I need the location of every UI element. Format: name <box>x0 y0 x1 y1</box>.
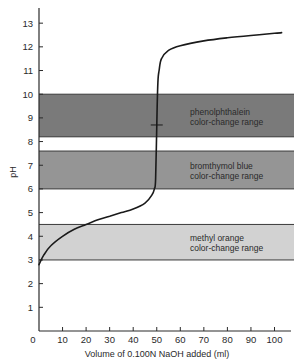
band-label-line2: color-change range <box>190 171 264 181</box>
band-label-line1: methyl orange <box>190 233 244 243</box>
x-tick-label: 90 <box>246 334 257 345</box>
x-tick-label: 0 <box>30 334 35 345</box>
x-tick-label: 60 <box>175 334 186 345</box>
band-phenolphthalein <box>39 94 294 137</box>
y-tick-label: 6 <box>28 183 33 194</box>
band-label-line1: phenolphthalein <box>190 107 250 117</box>
x-axis-title: Volume of 0.100N NaOH added (ml) <box>85 349 230 359</box>
x-tick-label: 40 <box>128 334 139 345</box>
band-methyl-orange <box>39 224 294 260</box>
y-tick-label: 7 <box>28 160 33 171</box>
y-tick-label: 11 <box>23 65 33 76</box>
y-tick-label: 1 <box>28 302 33 313</box>
band-label-line2: color-change range <box>190 243 264 253</box>
y-tick-label: 3 <box>28 254 33 265</box>
y-tick-label: 12 <box>22 41 33 52</box>
x-tick-label: 80 <box>222 334 233 345</box>
x-tick-label: 20 <box>81 334 92 345</box>
x-axis-ticks: 0102030405060708090100 <box>30 327 282 345</box>
band-bromthymol-blue <box>39 151 294 189</box>
y-tick-label: 2 <box>28 278 33 289</box>
y-tick-label: 13 <box>22 18 33 29</box>
x-tick-label: 70 <box>199 334 210 345</box>
y-tick-label: 10 <box>22 89 33 100</box>
x-tick-label: 10 <box>57 334 68 345</box>
band-label-line2: color-change range <box>190 117 264 127</box>
y-tick-label: 8 <box>28 136 33 147</box>
titration-chart: phenolphthaleincolor-change rangebromthy… <box>0 0 301 362</box>
y-axis-ticks: 12345678910111213 <box>22 18 43 313</box>
y-tick-label: 4 <box>28 231 33 242</box>
x-tick-label: 50 <box>151 334 162 345</box>
y-tick-label: 9 <box>28 112 33 123</box>
x-tick-label: 100 <box>267 334 283 345</box>
y-tick-label: 5 <box>28 207 33 218</box>
band-label-line1: bromthymol blue <box>190 161 253 171</box>
x-tick-label: 30 <box>104 334 115 345</box>
y-axis-title: pH <box>8 166 18 178</box>
